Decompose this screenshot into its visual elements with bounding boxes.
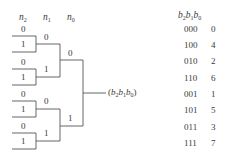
n1-label: 1 (44, 129, 49, 138)
bit-reversal-diagram: n2 n1 n0 0 1 0 1 0 1 0 1 0 1 0 1 0 1 (b2… (0, 0, 230, 160)
table-value: 6 (211, 74, 216, 83)
table-value: 7 (211, 139, 216, 148)
table-bits: 001 (184, 90, 198, 99)
table-bits: 111 (184, 139, 197, 148)
table-bits: 010 (184, 57, 198, 66)
n0-label: 1 (68, 114, 73, 123)
table-bits: 101 (184, 106, 198, 115)
header-n1: n1 (43, 13, 51, 23)
leaf-label: 1 (21, 137, 26, 146)
n1-label: 0 (44, 97, 49, 106)
table-header: b2b1b0 (178, 11, 201, 21)
leaf-label: 1 (21, 73, 26, 82)
table-bits: 100 (184, 41, 198, 50)
table-bits: 011 (184, 123, 197, 132)
leaf-label: 0 (21, 58, 26, 67)
table-bits: 110 (184, 74, 197, 83)
table-value: 3 (211, 123, 216, 132)
n1-label: 0 (44, 33, 49, 42)
table-value: 0 (211, 25, 216, 34)
table-value: 4 (211, 41, 216, 50)
n1-label: 1 (44, 65, 49, 74)
table-value: 2 (211, 57, 216, 66)
output-label: (b2b1b0) (108, 88, 137, 98)
table-bits: 000 (184, 25, 198, 34)
leaf-label: 0 (21, 90, 26, 99)
header-n2: n2 (19, 13, 27, 23)
leaf-label: 0 (21, 122, 26, 131)
leaf-label: 0 (21, 25, 26, 34)
n0-label: 0 (68, 49, 73, 58)
leaf-label: 1 (21, 40, 26, 49)
leaf-label: 1 (21, 105, 26, 114)
header-n0: n0 (67, 13, 75, 23)
table-value: 5 (211, 106, 216, 115)
table-value: 1 (211, 90, 216, 99)
